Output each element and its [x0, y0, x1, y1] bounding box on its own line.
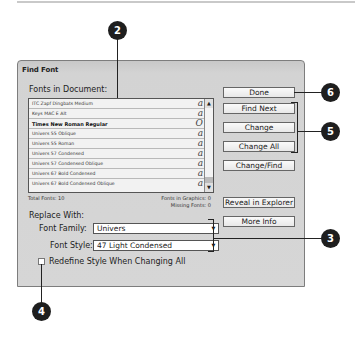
- dialog-title: Find Font: [22, 66, 58, 74]
- fonts-in-document-label: Fonts in Document:: [29, 85, 107, 94]
- opentype-font-icon: a: [198, 139, 203, 148]
- callout-4-leader: [41, 264, 42, 304]
- list-item[interactable]: Univers 57 Condensed Oblique a: [29, 159, 205, 169]
- opentype-font-icon: a: [198, 149, 203, 158]
- font-style-label: Font Style:: [50, 241, 93, 250]
- font-family-select[interactable]: Univers ▼: [93, 223, 219, 234]
- list-item[interactable]: Univers 55 Roman a: [29, 139, 205, 149]
- opentype-font-icon: a: [198, 129, 203, 138]
- scroll-down-arrow-icon[interactable]: ▼: [205, 183, 213, 192]
- opentype-font-icon: a: [198, 169, 203, 178]
- opentype-font-icon: a: [198, 109, 203, 118]
- callout-3-leader: [213, 238, 322, 239]
- callout-2-badge: 2: [108, 21, 127, 40]
- replace-with-label: Replace With:: [29, 211, 84, 220]
- opentype-font-icon: a: [198, 99, 203, 108]
- font-family-label: Font Family:: [39, 224, 87, 233]
- callout-2-leader: [117, 39, 118, 98]
- fonts-in-graphics-text: Fonts in Graphics: 0: [161, 195, 211, 201]
- total-fonts-text: Total Fonts: 10: [28, 195, 64, 201]
- list-item[interactable]: Univers 67 Bold Condensed a: [29, 169, 205, 179]
- change-button[interactable]: Change: [223, 122, 295, 133]
- reveal-in-explorer-button[interactable]: Reveal in Explorer: [223, 197, 295, 208]
- find-font-dialog: Find Font Fonts in Document: ITC Zapf Di…: [17, 60, 305, 287]
- missing-fonts-text: Missing Fonts: 0: [171, 202, 211, 208]
- list-item[interactable]: Times New Roman Regular O: [29, 119, 205, 129]
- list-item[interactable]: Univers 67 Bold Condensed Oblique a: [29, 179, 205, 192]
- callout-3-bracket: [213, 219, 214, 252]
- callout-5-badge: 5: [321, 122, 340, 141]
- callout-5-bracket-bottom: [291, 152, 298, 153]
- find-next-button[interactable]: Find Next: [223, 103, 295, 114]
- callout-3-bracket-bottom: [208, 251, 214, 252]
- font-style-select[interactable]: 47 Light Condensed ▼: [93, 240, 219, 251]
- opentype-font-icon: a: [198, 159, 203, 168]
- truetype-font-icon: O: [196, 119, 203, 128]
- opentype-font-icon: a: [198, 179, 203, 188]
- list-item[interactable]: Keys MAC E Alt a: [29, 109, 205, 119]
- callout-5-bracket: [297, 102, 298, 153]
- change-all-button[interactable]: Change All: [223, 141, 295, 152]
- callout-6-leader: [294, 92, 322, 93]
- top-rule: [17, 1, 355, 3]
- callout-4-badge: 4: [32, 302, 51, 321]
- fonts-list[interactable]: ITC Zapf Dingbats Medium a Keys MAC E Al…: [28, 98, 214, 193]
- redefine-style-label: Redefine Style When Changing All: [49, 257, 185, 266]
- list-item[interactable]: ITC Zapf Dingbats Medium a: [29, 99, 205, 109]
- callout-6-badge: 6: [321, 83, 340, 102]
- change-find-button[interactable]: Change/Find: [223, 160, 295, 171]
- done-button[interactable]: Done: [223, 87, 295, 98]
- list-item[interactable]: Univers 57 Condensed a: [29, 149, 205, 159]
- callout-3-badge: 3: [321, 229, 340, 248]
- callout-5-leader: [297, 131, 322, 132]
- callout-5-bracket-top: [291, 102, 298, 103]
- list-scrollbar[interactable]: ▲ ▼: [204, 99, 213, 192]
- callout-3-bracket-top: [208, 219, 214, 220]
- scroll-up-arrow-icon[interactable]: ▲: [205, 99, 213, 108]
- list-item[interactable]: Univers 55 Oblique a: [29, 129, 205, 139]
- more-info-button[interactable]: More Info: [223, 216, 295, 227]
